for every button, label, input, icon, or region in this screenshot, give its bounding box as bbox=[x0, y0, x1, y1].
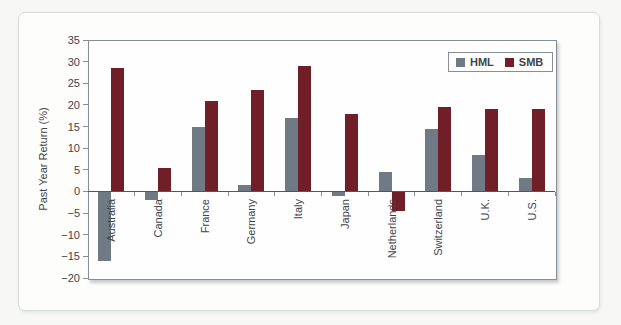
legend-entry-hml: HML bbox=[456, 56, 494, 68]
plot-area bbox=[88, 40, 557, 280]
legend-swatch-smb bbox=[505, 58, 514, 67]
chart-figure: 35302520151050−5−10−15−20 AustraliaCanad… bbox=[0, 0, 621, 325]
legend-swatch-hml bbox=[456, 58, 465, 67]
legend-label-smb: SMB bbox=[519, 56, 543, 68]
y-axis-title: Past Year Return (%) bbox=[36, 59, 50, 259]
legend-label-hml: HML bbox=[470, 56, 494, 68]
legend: HMLSMB bbox=[448, 52, 553, 72]
legend-entry-smb: SMB bbox=[505, 56, 543, 68]
